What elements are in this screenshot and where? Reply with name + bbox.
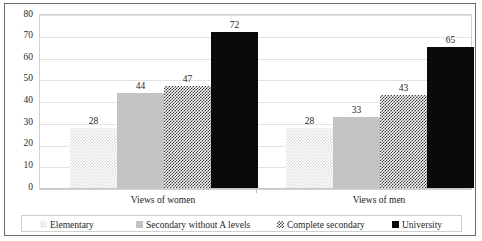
y-axis-tick-10: 10	[5, 160, 33, 170]
y-axis-tick-50: 50	[5, 73, 33, 83]
bar-label-women-complete-secondary: 47	[164, 74, 211, 85]
legend-swatch-elementary-icon	[40, 221, 47, 228]
bar-men-elementary[interactable]	[286, 128, 333, 189]
bar-label-men-complete-secondary: 43	[380, 83, 427, 94]
y-axis-tick-60: 60	[5, 52, 33, 62]
y-axis-tick-30: 30	[5, 117, 33, 127]
bar-label-men-university: 65	[427, 35, 474, 46]
y-axis-tick-70: 70	[5, 30, 33, 40]
bar-women-elementary[interactable]	[70, 128, 117, 189]
legend-item-university[interactable]: University	[392, 218, 442, 231]
bar-label-women-university: 72	[211, 20, 258, 31]
y-axis-tick-0: 0	[5, 182, 33, 192]
chart-frame: 80 70 60 50 40 30 20 10 0 28 44 47	[4, 3, 476, 236]
category-separator-tick	[256, 189, 257, 193]
bar-women-complete-secondary[interactable]	[164, 86, 211, 188]
legend-swatch-secondary-without-a-levels-icon	[136, 221, 143, 228]
bar-label-men-secondary-without-a-levels: 33	[333, 105, 380, 116]
bar-men-secondary-without-a-levels[interactable]	[333, 117, 380, 188]
y-axis-tick-80: 80	[5, 9, 33, 19]
legend-swatch-complete-secondary-icon	[277, 221, 284, 228]
bar-men-complete-secondary[interactable]	[380, 95, 427, 188]
legend-label-secondary-without-a-levels: Secondary without A levels	[146, 219, 250, 231]
y-axis: 80 70 60 50 40 30 20 10 0	[5, 4, 37, 190]
y-axis-tick-20: 20	[5, 138, 33, 148]
legend-label-university: University	[402, 219, 442, 231]
bar-label-women-secondary-without-a-levels: 44	[117, 81, 164, 92]
plot-area: 28 44 47 72 28 33 43 65	[39, 14, 472, 190]
legend-swatch-university-icon	[392, 221, 399, 228]
legend-label-complete-secondary: Complete secondary	[287, 219, 365, 231]
category-label-views-of-women: Views of women	[69, 194, 257, 206]
bar-women-university[interactable]	[211, 32, 258, 188]
bar-men-university[interactable]	[427, 47, 474, 188]
bar-label-women-elementary: 28	[70, 116, 117, 127]
bar-group-views-of-men: 28 33 43 65	[286, 14, 474, 188]
chart-legend: Elementary Secondary without A levels Co…	[21, 215, 462, 232]
legend-item-complete-secondary[interactable]: Complete secondary	[277, 218, 365, 231]
category-label-views-of-men: Views of men	[285, 194, 473, 206]
legend-item-secondary-without-a-levels[interactable]: Secondary without A levels	[136, 218, 250, 231]
bar-women-secondary-without-a-levels[interactable]	[117, 93, 164, 188]
legend-item-elementary[interactable]: Elementary	[40, 218, 94, 231]
bar-group-views-of-women: 28 44 47 72	[70, 14, 258, 188]
bar-label-men-elementary: 28	[286, 116, 333, 127]
y-axis-tick-40: 40	[5, 95, 33, 105]
legend-label-elementary: Elementary	[50, 219, 94, 231]
x-axis-category-labels: Views of women Views of men	[39, 194, 472, 210]
